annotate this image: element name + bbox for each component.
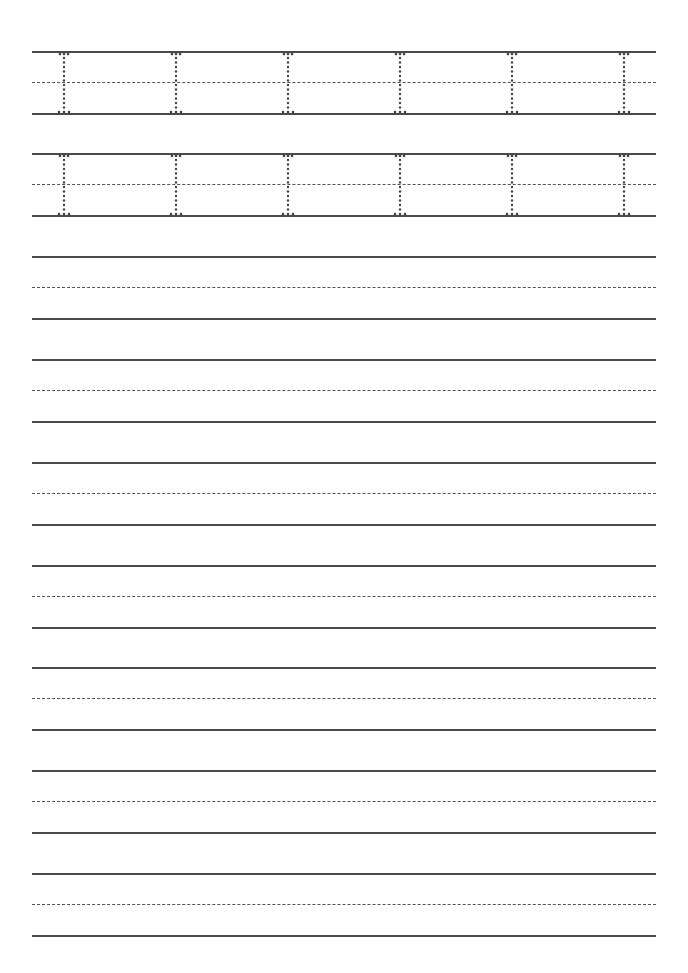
dotted-letter-i-glyph [55, 51, 73, 115]
midline-dashed [32, 390, 656, 391]
midline-dashed [32, 596, 656, 597]
dotted-letter-i-glyph [279, 153, 297, 217]
midline-dashed [32, 287, 656, 288]
dotted-letter-i-glyph [279, 51, 297, 115]
dotted-letter-i-glyph [391, 51, 409, 115]
midline-dashed [32, 904, 656, 905]
blank-writing-row [32, 770, 656, 834]
midline-dashed [32, 82, 656, 83]
dotted-letter-i-glyph [615, 153, 633, 217]
blank-writing-row [32, 256, 656, 320]
baseline [32, 935, 656, 937]
dotted-letter-i-glyph [55, 153, 73, 217]
blank-writing-row [32, 565, 656, 629]
dotted-letter-i-glyph [167, 153, 185, 217]
midline-dashed [32, 801, 656, 802]
baseline [32, 832, 656, 834]
top-line [32, 256, 656, 258]
top-line [32, 565, 656, 567]
baseline [32, 627, 656, 629]
blank-writing-row [32, 873, 656, 937]
baseline [32, 524, 656, 526]
blank-writing-row [32, 667, 656, 731]
dotted-letter-i-glyph [615, 51, 633, 115]
baseline [32, 215, 656, 217]
top-line [32, 873, 656, 875]
dotted-letter-i-glyph [167, 51, 185, 115]
blank-writing-row [32, 462, 656, 526]
blank-writing-row [32, 359, 656, 423]
baseline [32, 318, 656, 320]
top-line [32, 462, 656, 464]
midline-dashed [32, 493, 656, 494]
midline-dashed [32, 184, 656, 185]
top-line [32, 667, 656, 669]
top-line [32, 51, 656, 53]
dotted-letter-i-glyph [391, 153, 409, 217]
tracing-row [32, 51, 656, 115]
top-line [32, 359, 656, 361]
top-line [32, 153, 656, 155]
midline-dashed [32, 698, 656, 699]
dotted-letter-i-glyph [503, 51, 521, 115]
tracing-row [32, 153, 656, 217]
top-line [32, 770, 656, 772]
baseline [32, 729, 656, 731]
baseline [32, 421, 656, 423]
dotted-letter-i-glyph [503, 153, 521, 217]
baseline [32, 113, 656, 115]
